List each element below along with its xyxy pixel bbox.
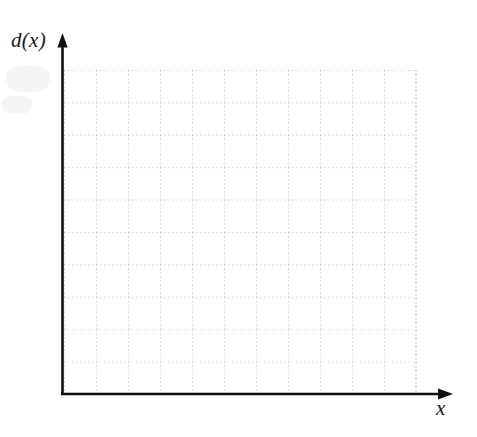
graph-svg: [0, 0, 477, 437]
y-axis-label: d(x): [11, 28, 46, 53]
x-axis-label: x: [436, 396, 445, 421]
scan-artifact: [2, 96, 32, 114]
y-axis-arrowhead-icon: [57, 33, 67, 48]
coordinate-grid-figure: d(x) x: [0, 0, 477, 437]
grid-area: [64, 70, 416, 394]
scan-artifact: [6, 66, 50, 92]
grid-lines: [64, 70, 416, 394]
